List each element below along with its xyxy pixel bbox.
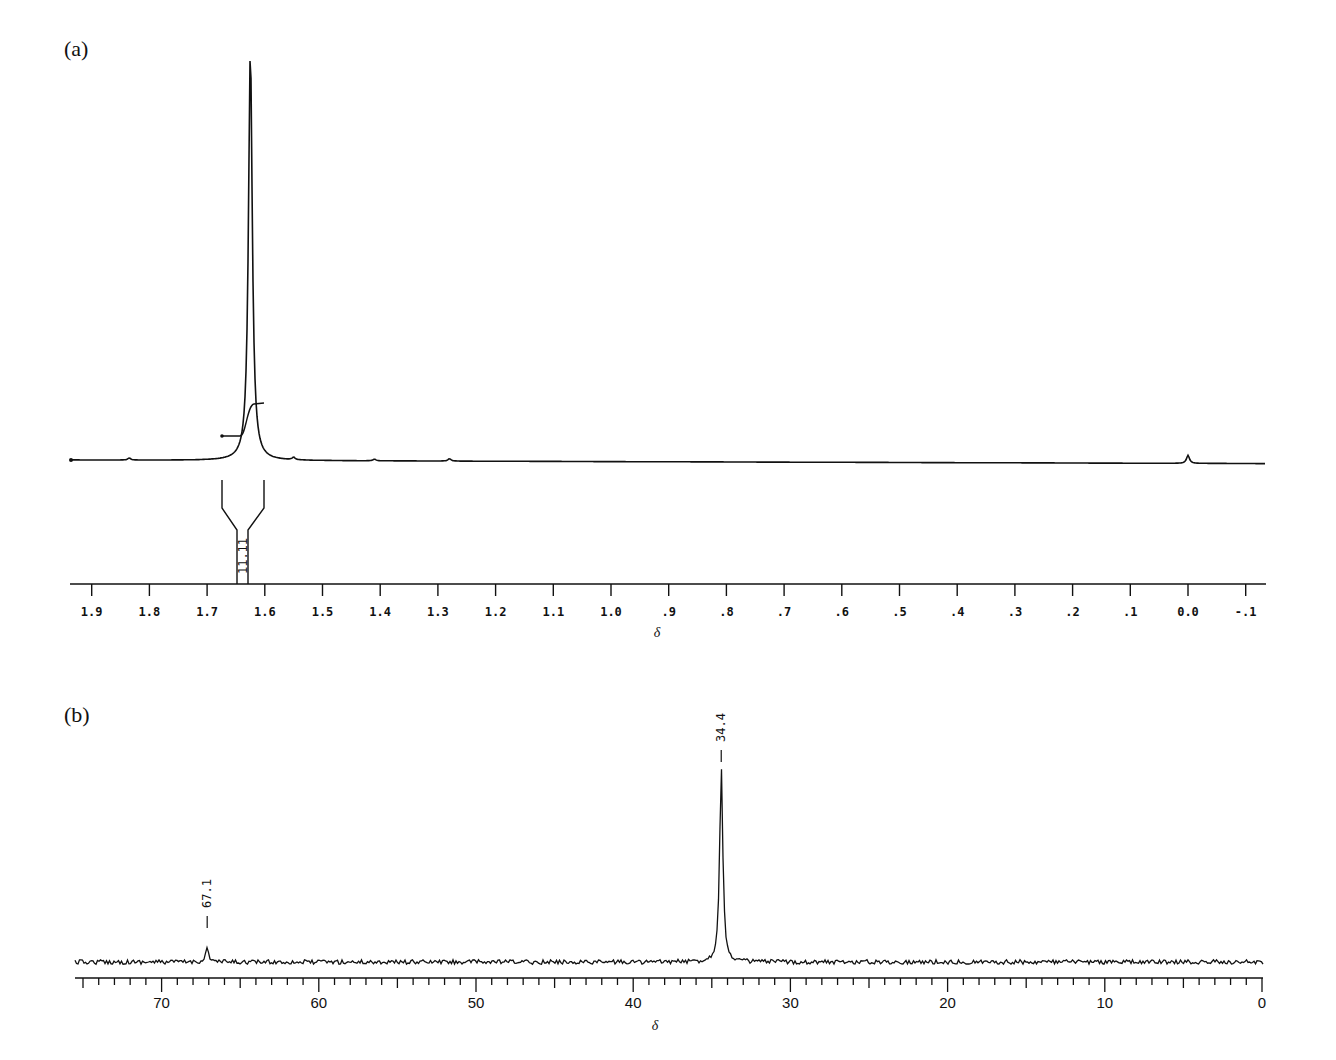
x-tick-label: 70 <box>153 994 170 1011</box>
spectrum-trace <box>75 769 1263 964</box>
x-tick-label: 50 <box>468 994 485 1011</box>
x-tick-label: 60 <box>310 994 327 1011</box>
x-axis-label: δ <box>652 1018 659 1033</box>
x-tick-label: 20 <box>939 994 956 1011</box>
x-tick-label: 40 <box>625 994 642 1011</box>
carbon-nmr-spectrum: 67.134.4706050403020100δ <box>0 0 1336 1060</box>
peak-label-34-4: 34.4 <box>714 713 728 742</box>
x-tick-label: 10 <box>1096 994 1113 1011</box>
x-tick-label: 30 <box>782 994 799 1011</box>
peak-label-67-1: 67.1 <box>200 879 214 908</box>
x-tick-label: 0 <box>1258 994 1266 1011</box>
